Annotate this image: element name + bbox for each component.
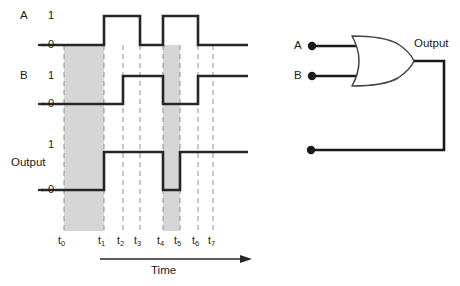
time-axis-label: Time — [151, 265, 176, 276]
gate-input-label-a: A — [294, 40, 302, 51]
gate-input-label-b: B — [294, 70, 302, 81]
time-tick-t0: t0 — [58, 235, 65, 248]
or-gate-body[interactable] — [352, 36, 414, 86]
level-label-b-high: 1 — [48, 70, 54, 81]
level-label-a-low: 0 — [48, 39, 54, 50]
time-tick-t4: t4 — [157, 235, 164, 248]
signal-label-b: B — [20, 70, 28, 81]
waveform-a — [41, 16, 248, 45]
shaded-region-t4-t5 — [163, 45, 180, 231]
signal-label-a: A — [20, 10, 28, 21]
time-tick-t5: t5 — [174, 235, 181, 248]
level-label-output-low: 0 — [48, 184, 54, 195]
signal-label-output: Output — [11, 157, 46, 168]
level-label-a-high: 1 — [48, 10, 54, 21]
figure-root: A 1 0 B 1 0 Output 1 0 t0 t1 t2 t3 t4 t5… — [0, 0, 460, 286]
time-tick-t1: t1 — [98, 235, 105, 248]
input-terminal-b[interactable] — [308, 72, 316, 80]
time-tick-t3: t3 — [134, 235, 141, 248]
level-label-output-high: 1 — [48, 139, 54, 150]
shaded-region-t0-t1 — [64, 45, 104, 231]
time-tick-t7: t7 — [208, 235, 215, 248]
gate-output-label: Output — [414, 38, 449, 49]
time-tick-t2: t2 — [117, 235, 124, 248]
level-label-b-low: 0 — [48, 98, 54, 109]
input-terminal-a[interactable] — [308, 42, 316, 50]
time-tick-t6: t6 — [192, 235, 199, 248]
level-ticks — [38, 45, 44, 190]
time-axis-arrow — [100, 255, 252, 263]
feedback-terminal[interactable] — [307, 146, 315, 154]
